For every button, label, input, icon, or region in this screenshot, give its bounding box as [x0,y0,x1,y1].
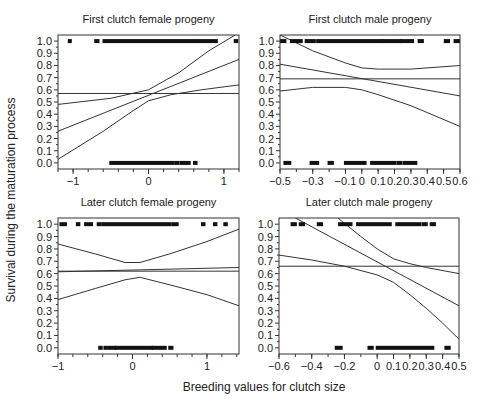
x-tick-label: −0.4 [301,360,323,372]
survived-points [76,222,80,226]
died-points [115,346,154,350]
survived-points [198,39,218,43]
x-tick-label: −0.1 [335,175,357,187]
y-tick-label: 0.2 [259,133,274,145]
y-tick-label: 0.1 [258,329,273,341]
died-points [444,346,450,350]
panel-title: First clutch male progeny [309,13,432,25]
y-tick-label: 0.7 [37,72,52,84]
y-tick-label: 0.1 [259,145,274,157]
plot-area [58,35,239,165]
died-points [335,346,343,350]
x-tick-label: 0.2 [402,360,417,372]
survived-points [101,222,171,226]
survived-points [356,222,392,226]
y-tick-label: 0.0 [37,157,52,169]
died-points [98,346,102,350]
x-tick-label: 0.5 [451,360,466,372]
died-points [174,161,179,165]
ci-upper-line [338,218,459,274]
y-tick-label: 1.0 [259,35,274,47]
figure: First clutch female progeny0.00.10.20.30… [0,0,483,401]
x-tick-label: 0.3 [403,175,418,187]
panel-4: Later clutch male progeny0.00.10.20.30.4… [258,196,467,372]
survived-points [97,222,101,226]
survived-points [213,222,217,226]
survived-points [382,39,401,43]
y-tick-label: 0.8 [37,243,52,255]
x-tick-label: −0.3 [302,175,324,187]
y-tick-label: 0.5 [37,280,52,292]
y-tick-label: 0.2 [37,133,52,145]
died-points [396,161,402,165]
panel-title: First clutch female progeny [82,13,215,25]
y-tick-label: 0.7 [259,72,274,84]
plot-frame [280,35,460,169]
ci-upper-line [58,229,239,262]
y-tick-label: 0.2 [37,317,52,329]
survived-points [454,39,460,43]
panel-title: Later clutch male progeny [306,196,433,208]
panel-1: First clutch female progeny0.00.10.20.30… [37,13,239,187]
x-tick-label: 0 [374,360,380,372]
died-points [152,346,167,350]
ci-lower-line [280,87,460,126]
died-points [179,161,190,165]
died-points [370,161,396,165]
survived-points [422,222,428,226]
panel-3: Later clutch female progeny0.00.10.20.30… [37,196,239,372]
survived-points [338,222,352,226]
x-tick-label: −1 [67,175,80,187]
y-tick-label: 0.9 [37,47,52,59]
y-tick-label: 0.5 [259,96,274,108]
y-tick-label: 0.4 [258,292,273,304]
died-points [328,161,334,165]
x-tick-label: 1 [204,360,210,372]
x-tick-label: 0 [145,175,151,187]
died-points [193,161,198,165]
x-tick-label: 0 [129,360,135,372]
survived-points [290,39,303,43]
x-tick-label: 0.2 [387,175,402,187]
y-tick-label: 0.3 [37,305,52,317]
survived-points [291,222,297,226]
y-tick-label: 0.9 [37,231,52,243]
plot-area [279,218,459,350]
y-tick-label: 0.6 [258,268,273,280]
died-points [283,161,291,165]
y-tick-label: 0.4 [37,292,52,304]
panel-2: First clutch male progeny0.00.10.20.30.4… [259,13,468,187]
died-points [310,161,320,165]
x-tick-label: 0.4 [420,175,435,187]
y-tick-label: 0.6 [259,84,274,96]
panel-title: Later clutch female progeny [81,196,217,208]
ci-upper-line [58,35,235,104]
survived-points [68,39,72,43]
survived-points [103,39,200,43]
survived-points [395,222,421,226]
plot-frame [58,35,239,169]
survived-points [444,39,450,43]
y-tick-label: 1.0 [37,35,52,47]
y-tick-label: 0.0 [258,342,273,354]
survived-points [84,222,93,226]
y-tick-label: 1.0 [258,218,273,230]
x-tick-label: 0.6 [452,175,467,187]
x-tick-label: 1 [221,175,227,187]
y-tick-label: 0.1 [37,329,52,341]
survived-points [201,222,205,226]
survived-points [234,39,239,43]
died-points [368,346,374,350]
died-points [109,161,174,165]
y-tick-label: 0.4 [259,108,274,120]
ci-lower-line [58,277,239,306]
y-tick-label: 0.5 [37,96,52,108]
y-tick-label: 0.4 [37,108,52,120]
x-tick-label: 0.1 [386,360,401,372]
y-axis-label: Survival during the maturation process [4,98,18,303]
y-tick-label: 0.6 [37,268,52,280]
y-tick-label: 1.0 [37,218,52,230]
survived-points [430,222,436,226]
survived-points [171,222,178,226]
y-tick-label: 0.2 [258,317,273,329]
